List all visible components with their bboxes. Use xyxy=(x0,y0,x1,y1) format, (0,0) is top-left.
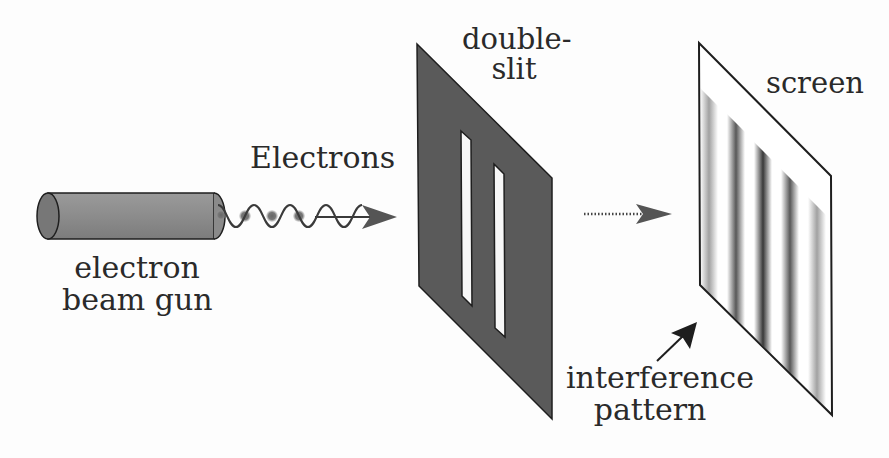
screen-label: screen xyxy=(766,68,864,98)
electron-gun-label: electron beam gun xyxy=(62,252,212,315)
interference-pattern-label: interference pattern xyxy=(566,362,734,425)
double-slit-label: double- slit xyxy=(462,24,566,85)
electrons-label: Electrons xyxy=(250,142,395,174)
double-slit-plate xyxy=(417,44,552,419)
double-slit-diagram: Electrons electron beam gun double- slit… xyxy=(0,0,889,458)
double-slit-label-line1: double- xyxy=(462,24,566,54)
double-slit-label-line2: slit xyxy=(462,54,566,84)
electron-gun-icon xyxy=(37,193,225,239)
interference-pattern-label-line1: interference xyxy=(566,362,734,394)
diagram-graphic xyxy=(0,0,889,458)
interference-pattern-label-line2: pattern xyxy=(566,394,734,426)
electron-wave-icon xyxy=(216,205,397,229)
propagation-arrow-icon xyxy=(584,204,672,224)
electron-gun-label-line2: beam gun xyxy=(62,284,212,316)
pattern-pointer-arrow-icon xyxy=(657,322,697,361)
electron-gun-label-line1: electron xyxy=(62,252,212,284)
